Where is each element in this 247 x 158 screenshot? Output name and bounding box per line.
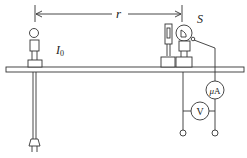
terminal-right xyxy=(212,130,218,136)
source-intensity-label: I0 xyxy=(55,43,64,58)
photocell-label: S xyxy=(197,12,203,26)
plug-icon xyxy=(29,139,40,152)
slit-holder xyxy=(161,24,175,67)
apparatus-diagram: r I0 S μA V xyxy=(0,0,247,158)
microammeter-label: μA xyxy=(208,86,221,96)
distance-label: r xyxy=(116,6,122,21)
voltmeter-label: V xyxy=(196,106,204,117)
optical-bench xyxy=(6,67,244,72)
distance-arrow xyxy=(35,5,182,22)
photocell xyxy=(176,25,195,67)
terminal-left xyxy=(180,130,186,136)
lamp-cable xyxy=(33,72,36,139)
lamp xyxy=(28,29,42,68)
